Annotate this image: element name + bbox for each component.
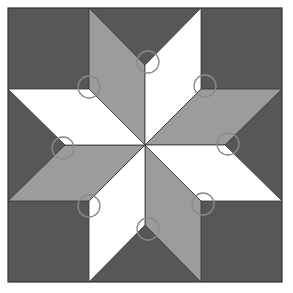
quilt-star-diagram xyxy=(0,0,293,293)
